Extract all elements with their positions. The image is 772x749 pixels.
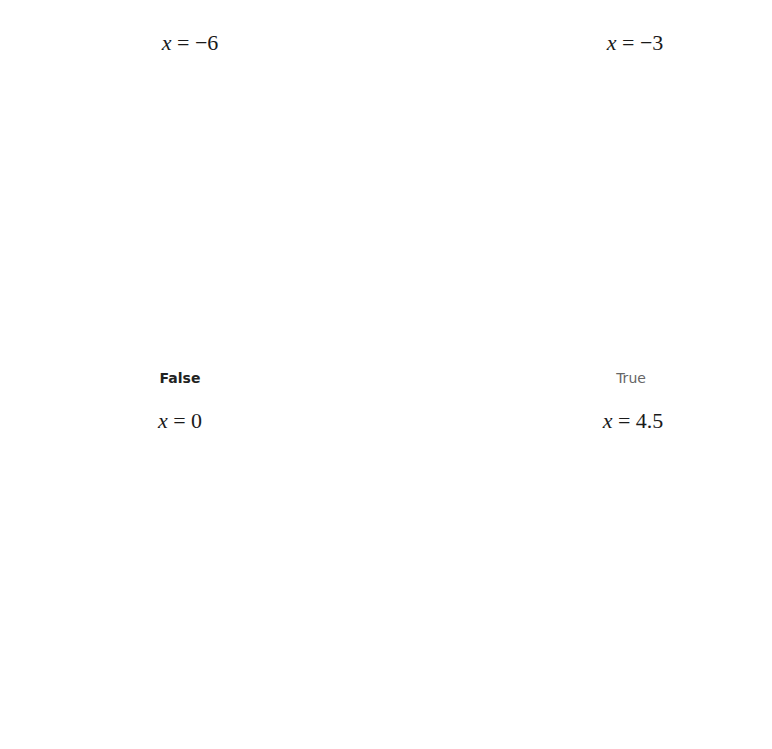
x-value-heading: x = −3: [585, 30, 685, 56]
x-value-heading: x = 0: [130, 408, 230, 434]
x-value-heading: x = 4.5: [578, 408, 688, 434]
verdict-true-label: True: [571, 370, 691, 386]
verdict-false-label: False: [120, 370, 240, 386]
x-value-heading: x = −6: [140, 30, 240, 56]
